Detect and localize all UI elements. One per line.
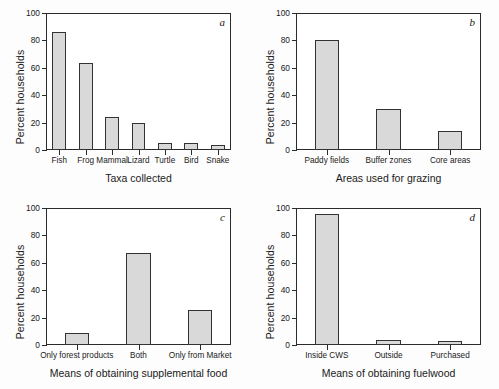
y-tick-a-0 (42, 150, 47, 151)
bar (105, 117, 119, 150)
y-tick-label-c-40: 40 (31, 285, 40, 295)
panel-d: Percent households d 020406080100Inside … (250, 195, 499, 389)
y-tick-label-b-100: 100 (276, 8, 290, 18)
bar (79, 63, 93, 150)
x-tick-label: Core areas (430, 156, 471, 165)
x-tick-label: Fish (51, 156, 66, 165)
x-tick-b-0 (327, 150, 328, 155)
y-tick-label-d-40: 40 (281, 285, 290, 295)
y-tick-a-100 (42, 13, 47, 14)
y-tick-c-40 (42, 290, 47, 291)
y-tick-b-80 (292, 40, 297, 41)
y-tick-d-40 (292, 290, 297, 291)
y-tick-d-80 (292, 235, 297, 236)
y-tick-label-c-100: 100 (26, 203, 40, 213)
x-tick-label: Inside CWS (305, 351, 348, 360)
y-tick-label-c-60: 60 (31, 258, 40, 268)
x-tick-d-0 (327, 345, 328, 350)
bar (126, 253, 151, 345)
y-tick-label-c-20: 20 (31, 313, 40, 323)
bar-group-c (46, 208, 231, 345)
y-tick-a-60 (42, 68, 47, 69)
y-tick-c-80 (42, 235, 47, 236)
x-axis-label-d: Means of obtaining fuelwood (296, 367, 481, 379)
y-tick-label-a-20: 20 (31, 118, 40, 128)
x-axis-label-c: Means of obtaining supplemental food (46, 367, 231, 379)
y-tick-label-d-60: 60 (281, 258, 290, 268)
y-tick-label-a-60: 60 (31, 63, 40, 73)
x-tick-label: Only forest products (40, 351, 113, 360)
bar (184, 143, 198, 150)
bar (315, 214, 340, 345)
y-tick-b-0 (292, 150, 297, 151)
x-tick-a-6 (218, 150, 219, 155)
plot-area-c: c 020406080100Only forest productsBothOn… (46, 208, 231, 345)
y-tick-label-b-20: 20 (281, 118, 290, 128)
y-tick-c-0 (42, 345, 47, 346)
x-tick-label: Only from Market (169, 351, 232, 360)
bar (438, 131, 463, 150)
plot-area-d: d 020406080100Inside CWSOutsidePurchased (296, 208, 481, 345)
bar (52, 32, 66, 150)
y-tick-d-0 (292, 345, 297, 346)
panel-letter-c: c (220, 211, 225, 223)
y-tick-a-80 (42, 40, 47, 41)
y-tick-a-40 (42, 95, 47, 96)
x-tick-a-2 (112, 150, 113, 155)
y-tick-label-b-60: 60 (281, 63, 290, 73)
bar-group-a (46, 13, 231, 150)
bar-group-b (296, 13, 481, 150)
y-tick-label-b-40: 40 (281, 90, 290, 100)
x-tick-a-1 (86, 150, 87, 155)
x-tick-label: Both (130, 351, 147, 360)
bar (376, 109, 401, 150)
y-tick-b-20 (292, 123, 297, 124)
y-tick-d-20 (292, 318, 297, 319)
x-tick-label: Purchased (431, 351, 470, 360)
y-tick-c-20 (42, 318, 47, 319)
y-axis-label-c: Percent households (14, 227, 26, 357)
y-tick-label-d-80: 80 (281, 230, 290, 240)
y-tick-c-100 (42, 208, 47, 209)
x-axis-label-a: Taxa collected (46, 172, 231, 184)
y-tick-label-a-0: 0 (35, 145, 40, 155)
x-tick-c-1 (139, 345, 140, 350)
x-tick-label: Snake (206, 156, 229, 165)
x-tick-label: Buffer zones (366, 156, 412, 165)
x-axis-label-b: Areas used for grazing (296, 172, 481, 184)
bar (65, 333, 90, 345)
x-tick-label: Bird (184, 156, 199, 165)
x-tick-a-3 (139, 150, 140, 155)
x-tick-label: Turtle (155, 156, 176, 165)
x-tick-d-1 (389, 345, 390, 350)
x-tick-a-0 (59, 150, 60, 155)
x-tick-b-2 (450, 150, 451, 155)
x-tick-label: Mammal (96, 156, 127, 165)
bar (132, 123, 146, 150)
y-tick-label-b-0: 0 (285, 145, 290, 155)
bar-group-d (296, 208, 481, 345)
panel-letter-a: a (220, 16, 226, 28)
figure-four-panel-bar-charts: Percent households a 020406080100FishFro… (0, 0, 499, 389)
panel-a: Percent households a 020406080100FishFro… (0, 0, 249, 194)
y-tick-label-c-0: 0 (35, 340, 40, 350)
x-tick-c-0 (77, 345, 78, 350)
y-tick-label-b-80: 80 (281, 35, 290, 45)
y-tick-d-60 (292, 263, 297, 264)
panel-letter-d: d (470, 211, 476, 223)
y-axis-label-b: Percent households (264, 32, 276, 162)
y-tick-label-d-100: 100 (276, 203, 290, 213)
y-tick-a-20 (42, 123, 47, 124)
panel-b: Percent households b 020406080100Paddy f… (250, 0, 499, 194)
x-tick-label: Paddy fields (305, 156, 350, 165)
x-tick-label: Outside (374, 351, 402, 360)
x-tick-a-5 (191, 150, 192, 155)
x-tick-label: Frog (77, 156, 94, 165)
y-tick-label-c-80: 80 (31, 230, 40, 240)
x-tick-a-4 (165, 150, 166, 155)
x-tick-label: Lizard (127, 156, 149, 165)
plot-area-b: b 020406080100Paddy fieldsBuffer zonesCo… (296, 13, 481, 150)
plot-area-a: a 020406080100FishFrogMammalLizardTurtle… (46, 13, 231, 150)
panel-letter-b: b (470, 16, 476, 28)
panel-c: Percent households c 020406080100Only fo… (0, 195, 249, 389)
